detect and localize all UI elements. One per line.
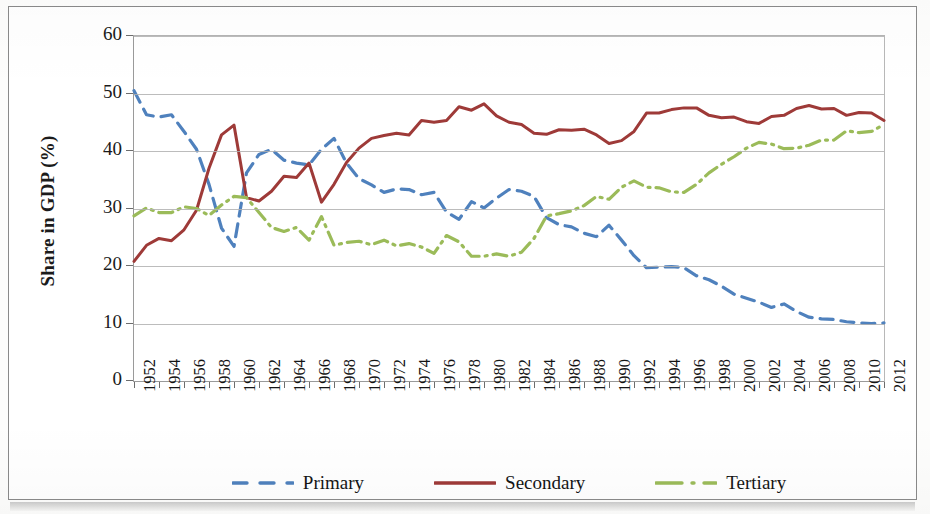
x-axis-tick-mark bbox=[784, 382, 785, 388]
x-axis-tick-label: 1976 bbox=[440, 359, 460, 392]
x-axis-tick-label: 1954 bbox=[165, 359, 185, 392]
legend-item-tertiary[interactable]: Tertiary bbox=[655, 472, 786, 494]
x-axis-tick-mark bbox=[184, 382, 185, 388]
x-axis-tick-label: 1998 bbox=[715, 359, 735, 392]
gridline bbox=[134, 151, 884, 152]
x-axis-tick-label: 2004 bbox=[790, 359, 810, 392]
gridline bbox=[134, 36, 884, 37]
y-axis-tick-label: 10 bbox=[78, 311, 122, 333]
x-axis-tick-mark bbox=[259, 382, 260, 388]
x-axis-tick-label: 2000 bbox=[740, 359, 760, 392]
x-axis-tick-label: 1956 bbox=[190, 359, 210, 392]
x-axis-tick-mark bbox=[659, 382, 660, 388]
x-axis-tick-mark bbox=[359, 382, 360, 388]
x-axis-tick-label: 2002 bbox=[765, 359, 785, 392]
x-axis-tick-mark bbox=[609, 382, 610, 388]
legend-label: Primary bbox=[303, 472, 364, 494]
x-axis-tick-mark bbox=[634, 382, 635, 388]
y-axis-tick-label: 20 bbox=[78, 253, 122, 275]
x-axis-tick-label: 1988 bbox=[590, 359, 610, 392]
gridline bbox=[134, 324, 884, 325]
x-axis-tick-label: 1980 bbox=[490, 359, 510, 392]
y-axis-tick-mark bbox=[126, 150, 133, 151]
x-axis-tick-mark bbox=[334, 382, 335, 388]
y-axis-tick-mark bbox=[126, 380, 133, 381]
y-axis-tick-label: 60 bbox=[78, 23, 122, 45]
y-axis-tick-label: 50 bbox=[78, 81, 122, 103]
legend-item-secondary[interactable]: Secondary bbox=[434, 472, 585, 494]
y-axis-tick-mark bbox=[126, 93, 133, 94]
x-axis-tick-mark bbox=[834, 382, 835, 388]
x-axis-tick-mark bbox=[559, 382, 560, 388]
x-axis-tick-mark bbox=[884, 382, 885, 388]
y-axis-tick-mark bbox=[126, 323, 133, 324]
x-axis-tick-label: 2008 bbox=[840, 359, 860, 392]
x-axis-tick-mark bbox=[684, 382, 685, 388]
x-axis-tick-label: 1986 bbox=[565, 359, 585, 392]
legend-item-primary[interactable]: Primary bbox=[232, 472, 364, 494]
x-axis-tick-label: 1994 bbox=[665, 359, 685, 392]
x-axis-tick-mark bbox=[159, 382, 160, 388]
legend-swatch-secondary-icon bbox=[434, 476, 496, 490]
x-axis-tick-label: 1990 bbox=[615, 359, 635, 392]
x-axis-tick-label: 1992 bbox=[640, 359, 660, 392]
x-axis-tick-mark bbox=[534, 382, 535, 388]
x-axis-tick-mark bbox=[734, 382, 735, 388]
x-axis-tick-mark bbox=[434, 382, 435, 388]
x-axis-tick-mark bbox=[209, 382, 210, 388]
x-axis-tick-mark bbox=[284, 382, 285, 388]
y-axis-tick-label: 0 bbox=[78, 368, 122, 390]
x-axis-tick-mark bbox=[484, 382, 485, 388]
y-axis-tick-label: 40 bbox=[78, 138, 122, 160]
x-axis-tick-label: 1984 bbox=[540, 359, 560, 392]
gridline bbox=[134, 209, 884, 210]
x-axis-tick-label: 2006 bbox=[815, 359, 835, 392]
x-axis-tick-label: 1968 bbox=[340, 359, 360, 392]
x-axis-tick-mark bbox=[809, 382, 810, 388]
scan-artifact bbox=[10, 502, 915, 511]
x-axis-tick-mark bbox=[234, 382, 235, 388]
x-axis-tick-label: 1964 bbox=[290, 359, 310, 392]
x-axis-tick-mark bbox=[409, 382, 410, 388]
x-axis-tick-label: 1996 bbox=[690, 359, 710, 392]
legend-label: Tertiary bbox=[726, 472, 786, 494]
legend-label: Secondary bbox=[505, 472, 585, 494]
x-axis-tick-mark bbox=[309, 382, 310, 388]
x-axis-tick-mark bbox=[384, 382, 385, 388]
y-axis-title: Share in GDP (%) bbox=[37, 101, 59, 321]
x-axis-tick-label: 2012 bbox=[890, 359, 910, 392]
x-axis-tick-label: 1982 bbox=[515, 359, 535, 392]
plot-area bbox=[133, 35, 885, 382]
gridline bbox=[134, 266, 884, 267]
x-axis-tick-mark bbox=[509, 382, 510, 388]
series-line-primary bbox=[134, 91, 884, 324]
x-axis-tick-label: 1978 bbox=[465, 359, 485, 392]
gridline bbox=[134, 94, 884, 95]
x-axis-tick-mark bbox=[584, 382, 585, 388]
x-axis-tick-label: 1962 bbox=[265, 359, 285, 392]
x-axis-tick-label: 1958 bbox=[215, 359, 235, 392]
x-axis-tick-label: 1952 bbox=[140, 359, 160, 392]
legend-swatch-tertiary-icon bbox=[655, 476, 717, 490]
figure-container: Share in GDP (%) 0102030405060 195219541… bbox=[0, 0, 930, 514]
x-axis-tick-mark bbox=[759, 382, 760, 388]
x-axis-tick-label: 1974 bbox=[415, 359, 435, 392]
legend-swatch-primary-icon bbox=[232, 476, 294, 490]
chart-legend: PrimarySecondaryTertiary bbox=[133, 466, 885, 500]
x-axis-tick-mark bbox=[459, 382, 460, 388]
x-axis-tick-label: 1970 bbox=[365, 359, 385, 392]
x-axis-tick-label: 2010 bbox=[865, 359, 885, 392]
x-axis-tick-mark bbox=[709, 382, 710, 388]
y-axis-tick-mark bbox=[126, 35, 133, 36]
series-line-secondary bbox=[134, 104, 884, 262]
x-axis-tick-label: 1972 bbox=[390, 359, 410, 392]
x-axis-tick-mark bbox=[134, 382, 135, 388]
x-axis-tick-mark bbox=[859, 382, 860, 388]
y-axis-tick-mark bbox=[126, 208, 133, 209]
y-axis-tick-mark bbox=[126, 265, 133, 266]
x-axis-tick-label: 1960 bbox=[240, 359, 260, 392]
x-axis-tick-label: 1966 bbox=[315, 359, 335, 392]
y-axis-tick-label: 30 bbox=[78, 196, 122, 218]
